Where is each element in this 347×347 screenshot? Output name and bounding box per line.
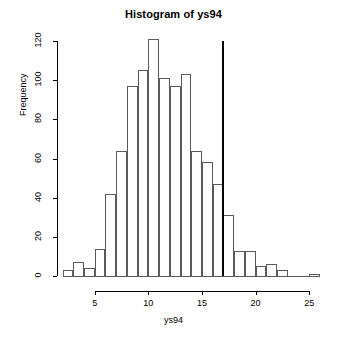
x-axis-tick-label: 25 [294, 298, 324, 308]
x-axis-tick [202, 291, 203, 295]
histogram-bar [256, 266, 267, 276]
histogram-bar [116, 151, 127, 276]
histogram-figure: Histogram of ys94 ys94 Frequency 0204060… [0, 0, 347, 347]
y-axis-line [57, 41, 58, 276]
histogram-bar [159, 78, 170, 276]
histogram-bar [148, 39, 159, 276]
histogram-bar [127, 86, 138, 276]
vertical-reference-line [222, 41, 224, 276]
plot-area: 020406080100120510152025 [0, 0, 347, 347]
x-axis-tick-label: 5 [80, 298, 110, 308]
y-axis-tick [53, 80, 57, 81]
x-axis-tick-label: 15 [187, 298, 217, 308]
histogram-bar [245, 251, 256, 276]
histogram-bar [202, 162, 213, 276]
histogram-bar [223, 215, 234, 276]
histogram-bar [138, 70, 149, 276]
histogram-bar [95, 249, 106, 276]
y-axis-tick-label: 0 [33, 264, 43, 286]
histogram-bar [234, 251, 245, 276]
y-axis-tick [53, 237, 57, 238]
x-axis-tick [256, 291, 257, 295]
histogram-bar [191, 151, 202, 276]
histogram-bar [170, 86, 181, 276]
y-axis-tick [53, 276, 57, 277]
x-axis-tick [148, 291, 149, 295]
y-axis-tick-label: 80 [33, 107, 43, 129]
y-axis-tick [53, 41, 57, 42]
x-axis-tick [95, 291, 96, 295]
histogram-bar [266, 264, 277, 276]
y-axis-tick [53, 159, 57, 160]
y-axis-tick-label: 40 [33, 186, 43, 208]
histogram-bar [73, 262, 84, 276]
histogram-bar [105, 194, 116, 276]
y-axis-tick [53, 198, 57, 199]
y-axis-tick [53, 119, 57, 120]
y-axis-tick-label: 100 [33, 68, 43, 90]
y-axis-tick-label: 60 [33, 147, 43, 169]
y-axis-tick-label: 120 [33, 29, 43, 51]
bar-baseline [63, 276, 321, 277]
histogram-bar [84, 268, 95, 276]
y-axis-tick-label: 20 [33, 225, 43, 247]
x-axis-tick-label: 10 [133, 298, 163, 308]
histogram-bar [181, 74, 192, 276]
x-axis-tick-label: 20 [241, 298, 271, 308]
x-axis-tick [309, 291, 310, 295]
